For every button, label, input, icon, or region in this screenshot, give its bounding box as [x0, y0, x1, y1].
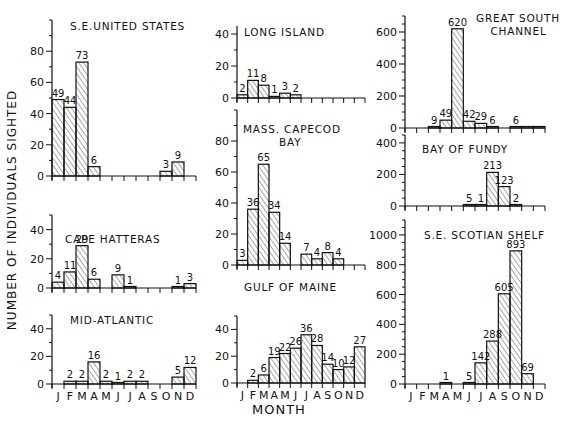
bar — [64, 381, 76, 384]
panel-great-south-channel: 0200400600949620422966GREAT SOUTHCHANNEL — [376, 12, 560, 135]
bar-value-label: 2 — [127, 369, 133, 380]
bar — [258, 375, 269, 383]
bar-value-label: 123 — [495, 175, 514, 186]
bar — [184, 367, 196, 384]
month-label: S — [501, 390, 508, 403]
bar — [269, 96, 280, 98]
bar-value-label: 620 — [448, 17, 467, 28]
bar-value-label: 2 — [292, 83, 298, 94]
bar — [172, 377, 184, 384]
bar — [172, 162, 184, 176]
y-tick-label: 20 — [215, 350, 229, 363]
bar-value-label: 213 — [483, 160, 502, 171]
y-tick-label: 0 — [390, 122, 397, 135]
bar — [510, 251, 522, 384]
bar — [344, 367, 355, 383]
month-label: M — [77, 390, 87, 403]
bar — [510, 127, 522, 129]
y-tick-label: 0 — [222, 92, 229, 105]
month-label: A — [138, 390, 146, 403]
y-tick-label: 400 — [376, 318, 397, 331]
bar-value-label: 1 — [443, 371, 449, 382]
y-tick-label: 40 — [30, 323, 44, 336]
month-label: O — [334, 389, 343, 402]
bar — [522, 374, 534, 384]
bar-value-label: 2 — [239, 83, 245, 94]
y-tick-label: 200 — [376, 348, 397, 361]
panel-title: CHANNEL — [490, 25, 546, 37]
y-tick-label: 20 — [30, 139, 44, 152]
bar-value-label: 14 — [279, 231, 292, 242]
y-tick-label: 40 — [30, 224, 44, 237]
bar-value-label: 11 — [247, 68, 260, 79]
panel-title: S.E. SCOTIAN SHELF — [424, 229, 545, 241]
month-label: A — [90, 390, 98, 403]
panel-title: BAY — [279, 136, 301, 148]
bar — [100, 381, 112, 384]
bar-value-label: 3 — [163, 159, 169, 170]
bar — [88, 279, 100, 288]
bar-value-label: 2 — [513, 193, 519, 204]
bar — [280, 243, 291, 265]
month-label: J — [127, 390, 131, 403]
bar-value-label: 65 — [257, 152, 270, 163]
bar-value-label: 9 — [175, 150, 181, 161]
bar-value-label: 6 — [513, 115, 519, 126]
y-tick-label: 80 — [215, 135, 229, 148]
bar-value-label: 49 — [52, 88, 65, 99]
bar — [269, 358, 280, 383]
bar-value-label: 28 — [311, 333, 324, 344]
bar — [112, 383, 124, 385]
bar — [184, 284, 196, 288]
y-tick-label: 400 — [376, 58, 397, 71]
y-tick-label: 20 — [30, 350, 44, 363]
bar — [440, 383, 452, 385]
panel-gulf-of-maine: 0204026192226362814101227GULF OF MAINEJF… — [215, 281, 366, 402]
panel-title: S.E.UNITED STATES — [70, 20, 185, 32]
month-label: D — [535, 390, 543, 403]
bar-value-label: 3 — [239, 248, 245, 259]
bar-value-label: 44 — [64, 95, 77, 106]
bar-value-label: 36 — [247, 197, 260, 208]
y-tick-label: 0 — [222, 259, 229, 272]
panel-mass-capecod-bay: 0204060803366534147484MASS. CAPECODBAY — [215, 110, 365, 272]
y-tick-label: 600 — [376, 289, 397, 302]
bar — [522, 127, 534, 129]
month-label: J — [115, 390, 119, 403]
bar-value-label: 1 — [175, 275, 181, 286]
panel-title: BAY OF FUNDY — [422, 143, 508, 155]
y-tick-label: 600 — [376, 26, 397, 39]
panel-title: CAPE HATTERAS — [65, 233, 160, 245]
y-tick-label: 20 — [215, 228, 229, 241]
panel-title: GREAT SOUTH — [476, 12, 560, 24]
panel-s-e-scotian-shelf: 020040060080010001514228860589369S.E. SC… — [369, 220, 545, 403]
bar — [112, 275, 124, 288]
panel-title: LONG ISLAND — [244, 26, 325, 38]
bar — [64, 107, 76, 176]
bar — [312, 259, 323, 265]
bar — [312, 345, 323, 383]
bar-value-label: 73 — [76, 50, 89, 61]
y-tick-label: 0 — [390, 200, 397, 213]
bar-value-label: 36 — [300, 323, 313, 334]
y-tick-label: 0 — [390, 378, 397, 391]
bar — [52, 100, 64, 176]
month-label: S — [151, 390, 158, 403]
bar-value-label: 1 — [115, 371, 121, 382]
bar — [475, 123, 487, 128]
bar — [76, 62, 88, 176]
bar-value-label: 4 — [314, 247, 320, 258]
month-label: J — [240, 389, 244, 402]
bar-value-label: 12 — [343, 355, 356, 366]
y-tick-label: 20 — [30, 253, 44, 266]
bar — [258, 164, 269, 265]
bar — [452, 29, 464, 128]
bar-value-label: 4 — [335, 247, 341, 258]
bar-value-label: 2 — [139, 369, 145, 380]
y-tick-label: 40 — [215, 28, 229, 41]
month-label: A — [489, 390, 497, 403]
bar — [475, 205, 487, 207]
bar-value-label: 5 — [466, 371, 472, 382]
x-axis-label: MONTH — [252, 402, 306, 417]
bar — [88, 167, 100, 176]
